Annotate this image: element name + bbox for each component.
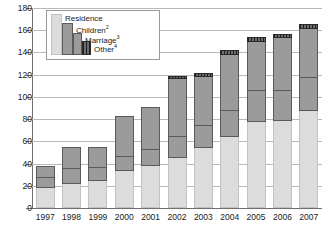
y-axis-tick-label: 160 <box>8 26 32 35</box>
bar-2003 <box>194 8 213 208</box>
bar-segment-children <box>247 90 266 122</box>
bar-2002 <box>168 8 187 208</box>
bar-2004 <box>220 8 239 208</box>
bar-segment-other <box>220 50 239 54</box>
bar-segment-marriage <box>247 41 266 91</box>
bar-segment-children <box>299 77 318 111</box>
bar-segment-children <box>220 110 239 137</box>
bar-segment-residence <box>220 136 239 208</box>
x-axis-tick-label: 2007 <box>291 212 327 222</box>
bar-segment-other <box>168 76 187 79</box>
legend-footnote-marker: 3 <box>117 34 120 40</box>
bar-segment-marriage <box>36 166 55 178</box>
x-axis-line <box>32 208 322 209</box>
bar-segment-other <box>247 37 266 42</box>
y-axis-tick-label: 80 <box>8 115 32 124</box>
bar-segment-marriage <box>88 147 107 168</box>
bar-segment-other <box>273 34 292 38</box>
bar-segment-children <box>194 125 213 148</box>
bar-segment-marriage <box>299 28 318 78</box>
bar-segment-other <box>299 24 318 29</box>
bar-segment-marriage <box>273 37 292 91</box>
y-axis-tick-label: 120 <box>8 71 32 80</box>
bar-segment-residence <box>273 120 292 208</box>
y-axis-tick-label: 60 <box>8 137 32 146</box>
bar-segment-marriage <box>141 107 160 150</box>
legend-swatch-other <box>82 41 91 55</box>
bar-segment-marriage <box>220 54 239 112</box>
bar-segment-residence <box>247 121 266 208</box>
bar-segment-children <box>273 90 292 121</box>
legend-label-other: Other4 <box>94 41 117 55</box>
bar-segment-other <box>194 73 213 77</box>
bar-segment-residence <box>36 187 55 208</box>
bar-segment-residence <box>115 170 134 208</box>
y-axis-tick-label: 140 <box>8 48 32 57</box>
bar-segment-marriage <box>194 76 213 126</box>
y-axis-tick-label: 40 <box>8 160 32 169</box>
bar-segment-marriage <box>115 116 134 157</box>
bar-segment-children <box>115 156 134 171</box>
bar-2007 <box>299 8 318 208</box>
legend-swatch-residence <box>51 14 62 55</box>
bar-segment-residence <box>141 165 160 208</box>
bar-segment-residence <box>62 183 81 208</box>
bar-2006 <box>273 8 292 208</box>
stacked-bar-chart: 020406080100120140160180 199719981999200… <box>0 0 334 242</box>
bar-segment-children <box>36 177 55 188</box>
legend-footnote-marker: 2 <box>106 24 109 30</box>
bar-segment-residence <box>88 180 107 208</box>
y-axis-tick-label: 100 <box>8 93 32 102</box>
y-axis-tick-label: 180 <box>8 4 32 13</box>
bar-segment-residence <box>299 110 318 208</box>
legend-swatch-marriage <box>73 33 82 55</box>
bar-segment-children <box>62 168 81 183</box>
bar-segment-residence <box>194 147 213 208</box>
legend-swatch-children <box>62 23 73 55</box>
legend-footnote-marker: 4 <box>114 43 117 49</box>
bar-segment-marriage <box>168 78 187 137</box>
bar-segment-residence <box>168 157 187 208</box>
bar-segment-children <box>141 149 160 166</box>
bar-segment-children <box>88 167 107 181</box>
bar-segment-children <box>168 136 187 158</box>
bar-segment-marriage <box>62 147 81 169</box>
legend: ResidenceChildren2Marriage3Other4 <box>46 10 160 60</box>
y-axis-tick-label: 20 <box>8 182 32 191</box>
bar-2005 <box>247 8 266 208</box>
